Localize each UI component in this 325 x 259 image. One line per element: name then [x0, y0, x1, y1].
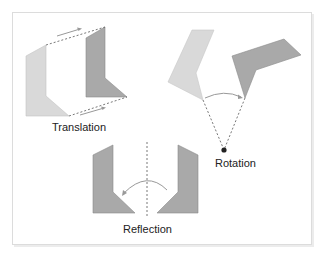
reflection-original-shape — [93, 145, 135, 213]
translation-top-arrow-icon — [57, 29, 80, 36]
transformations-diagram — [0, 0, 325, 259]
rotation-pivot-point — [221, 147, 226, 152]
rotation-left-dashed-line — [203, 100, 224, 150]
rotation-original-shape — [168, 30, 214, 100]
translation-group — [26, 27, 127, 116]
arrowhead-icon — [77, 28, 82, 32]
arrowhead-icon — [238, 95, 243, 100]
reflection-group — [93, 142, 198, 218]
translation-bottom-arrow-icon — [80, 108, 104, 115]
rotation-arc-arrow-icon — [205, 93, 241, 98]
arrowhead-icon — [101, 107, 106, 111]
rotation-label: Rotation — [215, 157, 256, 169]
reflection-image-shape — [157, 145, 198, 213]
rotation-image-shape — [232, 39, 301, 98]
translation-image-shape — [86, 27, 127, 97]
rotation-group — [168, 30, 301, 153]
reflection-arc-arrow-icon — [124, 181, 167, 193]
translation-original-shape — [26, 45, 69, 116]
rotation-right-dashed-line — [224, 98, 245, 150]
translation-bottom-dashed-line — [69, 97, 127, 116]
translation-label: Translation — [52, 121, 106, 133]
reflection-label: Reflection — [123, 223, 172, 235]
